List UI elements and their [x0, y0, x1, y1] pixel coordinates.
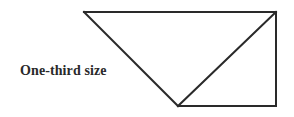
scale-caption: One-third size: [20, 63, 107, 79]
left-diagonal: [84, 12, 178, 106]
inner-diagonal: [178, 12, 276, 106]
geometric-diagram: [0, 0, 294, 117]
